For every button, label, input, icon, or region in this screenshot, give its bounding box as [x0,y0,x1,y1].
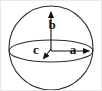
axis-label-c: c [33,42,39,57]
diagram-canvas: a b c [1,1,102,91]
axis-label-b: b [48,17,55,32]
ellipsoid-diagram: a b c [0,0,102,91]
axis-label-a: a [70,42,77,57]
axis-arrow-c [44,49,51,58]
